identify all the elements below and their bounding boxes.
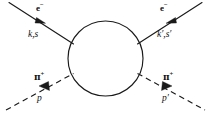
feynman-diagram-figure: e− k,s e− k′,s′ π+ p π+ p′ xyxy=(0,0,211,117)
outgoing-pion-symbol: π xyxy=(163,72,170,82)
outgoing-electron-arrowhead xyxy=(166,18,177,24)
incoming-pion-momentum-label: p xyxy=(37,94,42,104)
outgoing-pion-momentum-label: p′ xyxy=(162,94,169,104)
incoming-electron-particle-label: e− xyxy=(36,4,44,13)
outgoing-electron-charge: − xyxy=(164,1,168,8)
incoming-pion-charge: + xyxy=(41,70,45,77)
incoming-electron-momentum-label: k,s xyxy=(28,30,38,40)
incoming-pion-symbol: π xyxy=(34,72,41,82)
incoming-pion-arrowhead xyxy=(39,82,50,91)
outgoing-electron-momentum-label: k′,s′ xyxy=(157,30,171,40)
outgoing-pion-particle-label: π+ xyxy=(163,73,173,82)
loop-blob-circle xyxy=(68,21,143,96)
incoming-electron-charge: − xyxy=(40,1,44,8)
diagram-canvas xyxy=(0,0,211,117)
incoming-pion-particle-label: π+ xyxy=(34,73,44,82)
outgoing-electron-particle-label: e− xyxy=(160,4,168,13)
incoming-electron-arrowhead xyxy=(35,18,46,24)
outgoing-pion-charge: + xyxy=(170,70,174,77)
